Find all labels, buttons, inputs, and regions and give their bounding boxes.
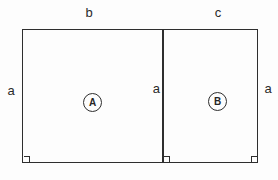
width-label-c: c — [211, 6, 225, 20]
height-label-a-left: a — [4, 84, 18, 98]
divider-line — [162, 29, 164, 163]
right-angle-mark-bottom-middle — [164, 156, 170, 162]
right-angle-mark-bottom-left — [24, 156, 30, 162]
height-label-a-right: a — [261, 82, 275, 96]
region-A-circle: A — [83, 93, 102, 112]
width-label-b: b — [82, 6, 96, 20]
region-B-circle: B — [208, 92, 227, 111]
right-angle-mark-bottom-right — [251, 156, 257, 162]
figure-canvas: b c a a a A B — [0, 0, 278, 180]
